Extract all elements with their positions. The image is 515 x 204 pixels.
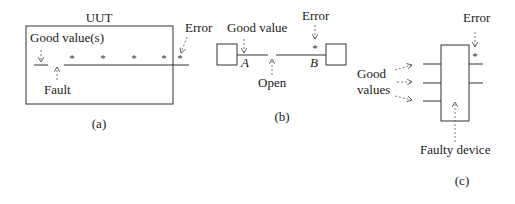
fault-propagation-diagram: UUT Good value(s) Error Fault (a) * * * … (0, 0, 515, 204)
good-value-arrow-icon (395, 96, 412, 100)
good-value-label: Good value (227, 20, 288, 35)
source-box (217, 44, 237, 65)
sink-box (326, 44, 346, 65)
caption-b: (b) (274, 109, 289, 124)
point-a-label: A (240, 55, 249, 70)
error-marker-icon: * (472, 50, 478, 62)
caption-c: (c) (455, 173, 469, 188)
error-label-a: Error (185, 20, 213, 35)
good-values-label: Good value(s) (30, 30, 104, 45)
point-b-label: B (310, 55, 318, 70)
error-marker-icon: * (100, 52, 106, 64)
panel-c: Good values Error Faulty device (c) * (357, 10, 491, 188)
good-values-label-line1: Good (357, 66, 386, 81)
error-label-b: Error (302, 8, 330, 23)
good-values-label-line2: values (357, 82, 390, 97)
uut-title: UUT (86, 10, 113, 25)
panel-b: Good value Error Open A B (b) * (217, 8, 346, 124)
fault-label: Fault (44, 82, 71, 97)
error-marker-icon: * (312, 42, 318, 54)
open-label: Open (258, 75, 287, 90)
error-arrow-icon (181, 37, 187, 53)
error-marker-icon: * (69, 52, 75, 64)
caption-a: (a) (92, 116, 106, 131)
good-value-arrow-icon (395, 65, 412, 70)
error-marker-icon: * (161, 52, 167, 64)
error-marker-icon: * (177, 52, 183, 64)
panel-a: UUT Good value(s) Error Fault (a) * * * … (26, 10, 213, 131)
faulty-device-label: Faulty device (420, 142, 491, 157)
error-marker-icon: * (131, 52, 137, 64)
error-label-c: Error (463, 10, 491, 25)
